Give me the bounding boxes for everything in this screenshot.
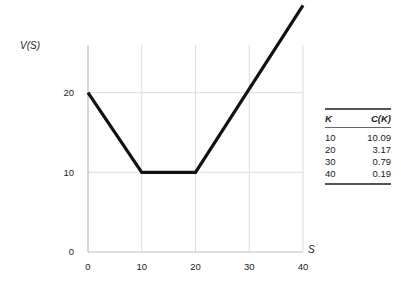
table-cell-ck: 0.19 <box>345 168 391 185</box>
table-row: 10 10.09 <box>325 128 391 144</box>
x-tick-label-10: 10 <box>129 261 155 272</box>
y-axis-title: V(S) <box>20 40 40 51</box>
y-tick-label-10: 10 <box>48 167 74 178</box>
table: K C(K) 10 10.09 20 3.17 30 0.79 40 <box>325 108 391 185</box>
table-row: 30 0.79 <box>325 156 391 168</box>
table-cell-ck: 3.17 <box>345 144 391 156</box>
table-cell-k: 30 <box>325 156 345 168</box>
x-tick-label-20: 20 <box>183 261 209 272</box>
table-cell-k: 40 <box>325 168 345 185</box>
x-tick-label-30: 30 <box>236 261 262 272</box>
x-tick-label-40: 40 <box>290 261 316 272</box>
table-header: K C(K) <box>325 109 391 128</box>
table-header-row: K C(K) <box>325 109 391 128</box>
payoff-chart: V(S) S 0 10 20 0 10 20 30 40 <box>0 0 320 286</box>
y-tick-label-20: 20 <box>48 87 74 98</box>
table-header-k: K <box>325 109 345 128</box>
chart-page: V(S) S 0 10 20 0 10 20 30 40 K C(K) 10 1… <box>0 0 401 286</box>
table-cell-k: 20 <box>325 144 345 156</box>
table-cell-k: 10 <box>325 128 345 144</box>
table-row: 40 0.19 <box>325 168 391 185</box>
vertical-gridlines <box>142 45 250 252</box>
y-tick-label-0: 0 <box>48 246 74 257</box>
table-cell-ck: 10.09 <box>345 128 391 144</box>
table-body: 10 10.09 20 3.17 30 0.79 40 0.19 <box>325 128 391 185</box>
x-tick-label-0: 0 <box>75 261 101 272</box>
table-header-ck: C(K) <box>345 109 391 128</box>
x-axis-title: S <box>308 244 315 255</box>
plot-canvas <box>0 0 320 286</box>
option-price-table: K C(K) 10 10.09 20 3.17 30 0.79 40 <box>325 108 391 185</box>
table-cell-ck: 0.79 <box>345 156 391 168</box>
table-row: 20 3.17 <box>325 144 391 156</box>
